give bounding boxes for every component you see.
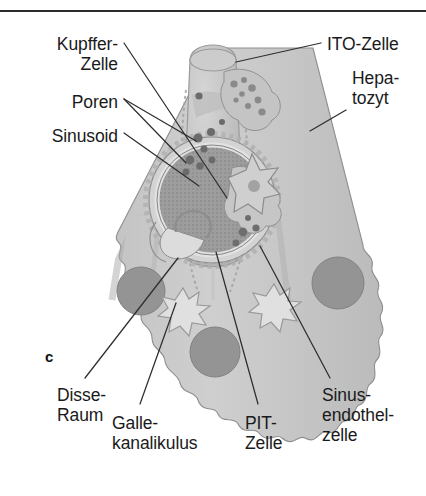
- label-sinusoid: Sinusoid: [0, 126, 118, 146]
- label-kupffer-zelle: Kupffer- Zelle: [0, 34, 118, 74]
- label-sinusendothelzelle: Sinus- endothel- zelle: [322, 385, 426, 445]
- label-hepatozyt: Hepa- tozyt: [352, 68, 426, 108]
- label-ito-zelle: ITO-Zelle: [327, 34, 426, 54]
- label-galle-kanalikulus: Galle- kanalikulus: [112, 413, 237, 453]
- label-poren: Poren: [0, 92, 118, 112]
- figure-panel: Kupffer- Zelle Poren Sinusoid ITO-Zelle …: [0, 0, 426, 496]
- panel-letter-c: c: [45, 348, 53, 365]
- vessel-opening: [190, 49, 236, 71]
- label-pit-zelle: PIT- Zelle: [245, 413, 315, 453]
